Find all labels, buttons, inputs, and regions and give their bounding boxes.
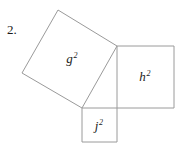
square-j-label-exponent: 2 — [99, 117, 104, 126]
square-g-label-exponent: 2 — [73, 50, 78, 59]
geometry-figure: 2. g2 h2 j2 — [0, 0, 185, 146]
square-h-label-exponent: 2 — [146, 68, 151, 77]
square-g-label-base: g — [66, 51, 73, 66]
square-h-label: h2 — [139, 70, 150, 83]
problem-number: 2. — [7, 23, 17, 36]
square-j-label: j2 — [95, 119, 104, 132]
square-h-label-base: h — [139, 69, 146, 84]
figure-canvas — [0, 0, 185, 146]
square-g-label: g2 — [66, 52, 77, 65]
